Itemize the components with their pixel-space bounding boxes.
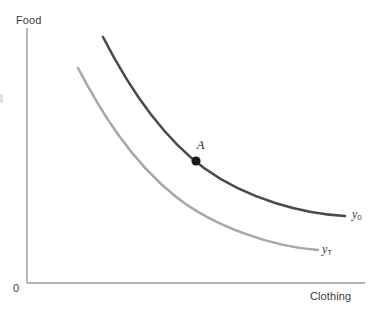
- curve-label-y0-subscript: 0: [357, 213, 361, 222]
- curve-label-yT: yT: [322, 242, 332, 257]
- curve-label-yT-subscript: T: [327, 248, 332, 257]
- point-a-marker: [191, 156, 200, 165]
- plot-area: [0, 0, 378, 319]
- point-a-label: A: [197, 138, 204, 153]
- curve-label-y0: y0: [352, 207, 362, 222]
- indifference-curve-chart: Food Clothing 0 A y0 yT: [0, 0, 378, 319]
- indifference-curve-y0: [103, 37, 345, 216]
